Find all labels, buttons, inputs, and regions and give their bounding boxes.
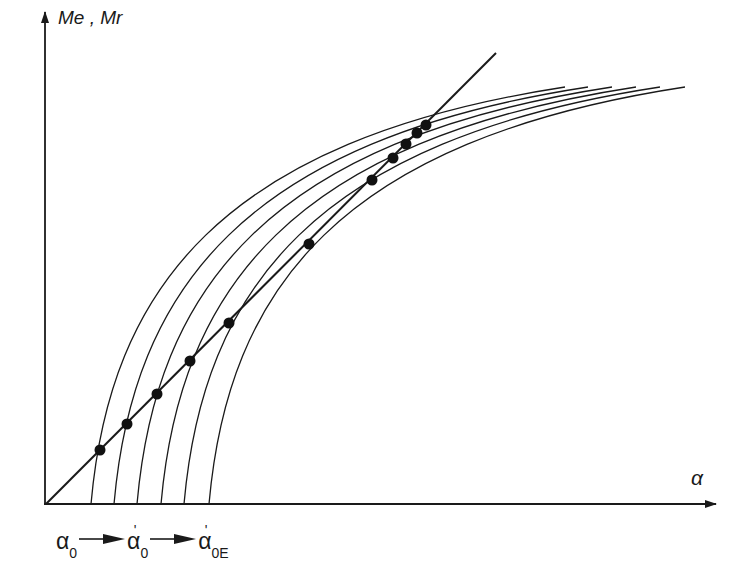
torque-curve	[137, 87, 612, 504]
alpha-0: α0	[56, 528, 77, 558]
intersection-point	[122, 419, 133, 430]
alpha-0E-prime: α0E	[198, 528, 228, 558]
intersection-point	[367, 175, 378, 186]
intersection-point	[421, 120, 432, 131]
diagram-canvas	[0, 0, 748, 584]
intersection-point	[401, 139, 412, 150]
intersection-point	[388, 153, 399, 164]
intersection-point	[224, 318, 235, 329]
arrow-icon	[79, 532, 125, 546]
y-axis-label: Me , Mr	[58, 7, 122, 29]
intersection-point	[152, 389, 163, 400]
alpha-sequence: α0 α0 α0E	[56, 528, 229, 558]
torque-curve	[114, 87, 588, 504]
x-axis-label: α	[691, 466, 703, 490]
intersection-point	[95, 445, 106, 456]
intersection-point	[185, 356, 196, 367]
arrow-icon	[150, 532, 196, 546]
alpha-0-prime: α0	[127, 528, 148, 558]
torque-curve	[209, 87, 685, 504]
torque-curves	[91, 87, 685, 504]
torque-curve	[91, 87, 565, 504]
intersection-point	[412, 128, 423, 139]
intersection-point	[304, 239, 315, 250]
